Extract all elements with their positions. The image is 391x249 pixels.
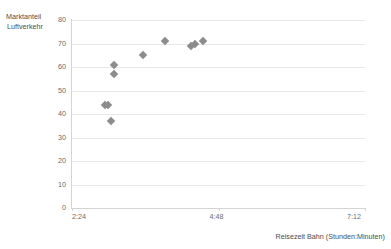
y-axis-tick-label: 0 xyxy=(46,204,66,212)
data-point xyxy=(109,70,117,78)
x-axis-tick-mark xyxy=(219,208,220,211)
y-axis-tick-label: 10 xyxy=(46,181,66,189)
y-axis-tick-label: 80 xyxy=(46,16,66,24)
y-axis-tick-label: 40 xyxy=(46,110,66,118)
y-axis-tick-label-text: 80 xyxy=(48,16,66,24)
y-axis-tick-label-text: 0 xyxy=(48,204,66,212)
y-axis-tick-label: 60 xyxy=(46,63,66,71)
data-point xyxy=(106,117,114,125)
x-axis-tick-label: 7:12 xyxy=(347,213,361,221)
scatter-chart: Marktanteil Luftverkehr 8070605040302010… xyxy=(0,0,391,249)
data-point xyxy=(160,37,168,45)
y-axis-tick-label: 50 xyxy=(46,87,66,95)
x-axis-tick-mark xyxy=(72,208,73,211)
data-point xyxy=(139,51,147,59)
data-point xyxy=(199,37,207,45)
y-axis-tick-label: 70 xyxy=(46,40,66,48)
x-axis-title: Reisezeit Bahn (Stunden:Minuten) xyxy=(0,232,385,241)
y-axis-tick-label-text: 10 xyxy=(48,181,66,189)
y-axis-tick-label-text: 20 xyxy=(48,157,66,165)
x-axis-tick-label: 4:48 xyxy=(210,213,224,221)
y-axis-tick-label-text: 30 xyxy=(48,134,66,142)
data-point xyxy=(109,60,117,68)
y-axis-tick-label-text: 50 xyxy=(48,87,66,95)
y-axis-tick-label: 30 xyxy=(46,134,66,142)
plot-area xyxy=(72,20,365,208)
y-axis-tick-label-text: 70 xyxy=(48,40,66,48)
x-axis-tick-label: 2:24 xyxy=(72,213,86,221)
y-axis-tick-label: 20 xyxy=(46,157,66,165)
x-axis-tick-mark xyxy=(365,208,366,211)
y-axis-tick-label-text: 60 xyxy=(48,63,66,71)
y-axis-tick-label-text: 40 xyxy=(48,110,66,118)
